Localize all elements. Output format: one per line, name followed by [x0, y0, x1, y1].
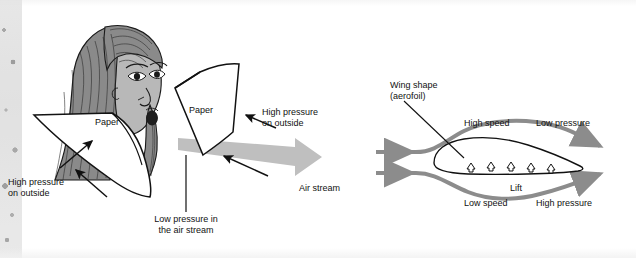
- label-low-pressure-line1: Low pressure in: [131, 214, 241, 225]
- label-low-pressure-top: Low pressure: [536, 118, 616, 129]
- label-low-speed: Low speed: [464, 198, 532, 209]
- figure-canvas: Paper High pressure on outside Paper Hig…: [0, 0, 636, 258]
- label-lift: Lift: [496, 183, 536, 194]
- aerofoil-graphic: [360, 0, 636, 258]
- label-high-pressure-outside-left-line2: on outside: [8, 188, 94, 199]
- aerofoil-outline: [434, 138, 583, 175]
- label-paper-right: Paper: [180, 105, 222, 116]
- label-air-stream: Air stream: [299, 183, 369, 194]
- label-high-pressure-outside-left-line1: High pressure: [8, 177, 94, 188]
- label-wing-shape-line2: (aerofoil): [390, 91, 472, 102]
- streamline-lower: [376, 173, 600, 199]
- label-high-pressure-bottom: High pressure: [536, 198, 620, 209]
- label-low-pressure-line2: the air stream: [131, 225, 241, 236]
- label-wing-shape-line1: Wing shape: [390, 80, 472, 91]
- label-high-pressure-outside-right-line1: High pressure: [262, 107, 352, 118]
- label-paper-left: Paper: [86, 117, 128, 128]
- label-high-pressure-outside-right-line2: on outside: [262, 118, 352, 129]
- label-high-speed: High speed: [464, 118, 532, 129]
